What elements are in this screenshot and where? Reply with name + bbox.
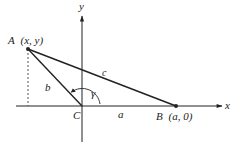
side-a-label: a bbox=[118, 108, 124, 120]
law-of-cosines-diagram: x y A (x, y) B (a, 0) C a b c γ bbox=[0, 0, 237, 148]
side-b-label: b bbox=[45, 81, 51, 93]
x-axis-label: x bbox=[224, 99, 230, 111]
angle-gamma-arc bbox=[72, 88, 101, 104]
point-c-label: C bbox=[73, 109, 81, 121]
angle-gamma-label: γ bbox=[91, 87, 96, 99]
point-b bbox=[174, 104, 178, 108]
point-b-label: B (a, 0) bbox=[156, 110, 193, 123]
point-a bbox=[26, 47, 30, 51]
point-a-label: A (x, y) bbox=[7, 34, 43, 47]
side-b bbox=[28, 49, 82, 106]
y-axis-label: y bbox=[78, 0, 84, 12]
side-c-label: c bbox=[102, 67, 107, 78]
